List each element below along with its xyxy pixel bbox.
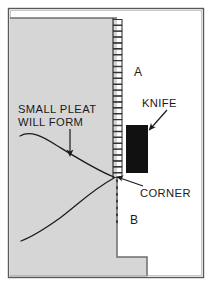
figure-container: SMALL PLEAT WILL FORM KNIFE CORNER A B <box>0 0 212 286</box>
pleat-label-line2: WILL FORM <box>18 116 83 128</box>
knife-blade <box>126 125 148 173</box>
corner-label: CORNER <box>140 187 191 199</box>
pleat-label-line1: SMALL PLEAT <box>18 103 96 115</box>
region-a-label: A <box>134 65 142 79</box>
pleat-knife-diagram: SMALL PLEAT WILL FORM KNIFE CORNER A B <box>0 0 212 286</box>
region-b-label: B <box>130 213 138 227</box>
knife-label: KNIFE <box>142 97 177 109</box>
